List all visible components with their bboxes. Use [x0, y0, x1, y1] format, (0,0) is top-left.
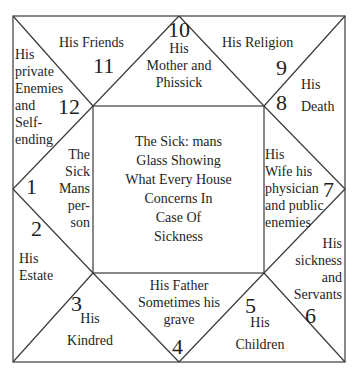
chart-center-title: The Sick: mans Glass Showing What Every …	[93, 132, 264, 246]
label-line: and	[15, 97, 63, 114]
label-line: His	[129, 40, 229, 57]
center-line: The Sick: mans	[93, 132, 264, 151]
label-line: Wife his	[265, 163, 324, 180]
label-line: grave	[120, 311, 238, 328]
house-7-label: His Wife his physician and public enemie…	[265, 146, 324, 231]
house-9-number: 9	[276, 57, 287, 79]
house-12-number: 12	[58, 96, 80, 118]
center-line: Sickness	[93, 227, 264, 246]
label-line: His	[58, 310, 122, 327]
label-line: Self-	[15, 114, 63, 131]
label-line: His	[19, 250, 53, 267]
label-line: Mans	[44, 180, 90, 197]
label-line: per-	[44, 197, 90, 214]
house-3-label: His Kindred	[58, 310, 122, 349]
house-5-label: His Children	[225, 314, 295, 353]
label-line: His	[225, 314, 295, 331]
astrological-house-chart: The Sick: mans Glass Showing What Every …	[0, 0, 357, 373]
label-line: physician	[265, 180, 324, 197]
house-1-number: 1	[26, 176, 37, 198]
label-line: son	[44, 214, 90, 231]
center-line: What Every House	[93, 170, 264, 189]
label-line: Servants	[278, 286, 342, 303]
label-line: and	[278, 269, 342, 286]
house-6-label: His sickness and Servants	[278, 235, 342, 303]
label-line: Sometimes his	[120, 294, 238, 311]
house-2-label: His Estate	[19, 250, 53, 284]
center-line: Concerns In	[93, 189, 264, 208]
label-line: Enemies	[15, 80, 63, 97]
label-line: Sick	[44, 163, 90, 180]
label-line: Estate	[19, 267, 53, 284]
label-line: His	[301, 76, 334, 93]
center-line: Case Of	[93, 208, 264, 227]
house-11-label: His Friends	[59, 34, 124, 51]
label-line: Phissick	[129, 74, 229, 91]
house-1-label: The Sick Mans per- son	[44, 146, 90, 231]
house-9-label: His Religion	[222, 34, 293, 51]
house-8-label: His Death	[301, 76, 334, 115]
house-2-number: 2	[31, 218, 42, 240]
label-line: enemies	[265, 214, 324, 231]
label-line: Kindred	[58, 332, 122, 349]
house-8-number: 8	[276, 92, 287, 114]
label-line: Children	[225, 336, 295, 353]
label-line: and public	[265, 197, 324, 214]
label-line: sickness	[278, 252, 342, 269]
house-11-number: 11	[93, 55, 114, 77]
house-10-label: His Mother and Phissick	[129, 40, 229, 91]
label-line: private	[15, 63, 63, 80]
house-10-number: 10	[168, 19, 190, 41]
house-6-number: 6	[305, 305, 316, 327]
label-line: His	[265, 146, 324, 163]
house-4-label: His Father Sometimes his grave	[120, 277, 238, 328]
house-7-number: 7	[323, 179, 334, 201]
house-4-number: 4	[172, 336, 183, 358]
center-line: Glass Showing	[93, 151, 264, 170]
label-line: His	[278, 235, 342, 252]
label-line: His Father	[120, 277, 238, 294]
label-line: Mother and	[129, 57, 229, 74]
label-line: His	[15, 46, 63, 63]
label-line: The	[44, 146, 90, 163]
house-12-label: His private Enemies and Self- ending	[15, 46, 63, 148]
label-line: Death	[301, 98, 334, 115]
